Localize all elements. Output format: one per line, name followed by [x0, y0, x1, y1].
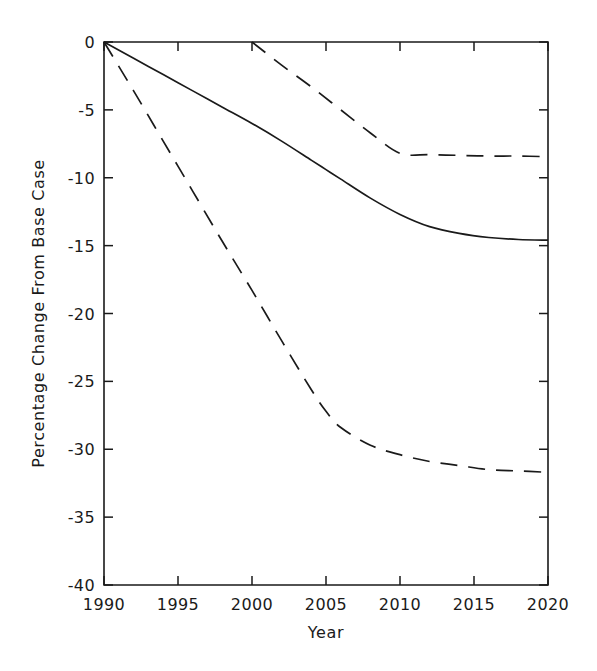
y-axis-tick-label: -15	[68, 237, 95, 256]
y-axis-tick-label: -10	[68, 169, 95, 188]
x-axis-title: Year	[307, 623, 344, 642]
y-axis-tick-label: -35	[68, 508, 95, 527]
y-axis-tick-label: -20	[68, 305, 95, 324]
x-axis-tick-label: 2000	[231, 595, 273, 614]
data-series-group	[104, 42, 548, 472]
y-axis-tick-label: -40	[68, 576, 95, 595]
axis-frame	[104, 42, 548, 585]
y-axis-tick-group	[104, 42, 548, 585]
x-axis-tick-group	[104, 42, 548, 585]
y-axis-tick-label: -30	[68, 440, 95, 459]
series-line-middle-solid	[104, 42, 548, 240]
x-axis-tick-label: 2015	[453, 595, 495, 614]
series-line-lower-dashed	[104, 42, 548, 472]
y-axis-title: Percentage Change From Base Case	[29, 159, 48, 468]
y-axis-tick-label: 0	[84, 33, 95, 52]
x-axis-tick-label: 1990	[83, 595, 125, 614]
x-axis-tick-label: 2005	[305, 595, 347, 614]
x-axis-tick-labels: 1990199520002005201020152020	[83, 595, 569, 614]
x-axis-tick-label: 2010	[379, 595, 421, 614]
y-axis-tick-labels: 0-5-10-15-20-25-30-35-40	[68, 33, 95, 595]
line-chart-canvas: 0-5-10-15-20-25-30-35-40 199019952000200…	[0, 0, 597, 671]
y-axis-tick-label: -5	[78, 101, 95, 120]
x-axis-tick-label: 1995	[157, 595, 199, 614]
chart-figure: 0-5-10-15-20-25-30-35-40 199019952000200…	[0, 0, 597, 671]
x-axis-tick-label: 2020	[527, 595, 569, 614]
y-axis-tick-label: -25	[68, 372, 95, 391]
plot-frame	[104, 42, 548, 585]
series-line-upper-dashed	[252, 42, 548, 157]
